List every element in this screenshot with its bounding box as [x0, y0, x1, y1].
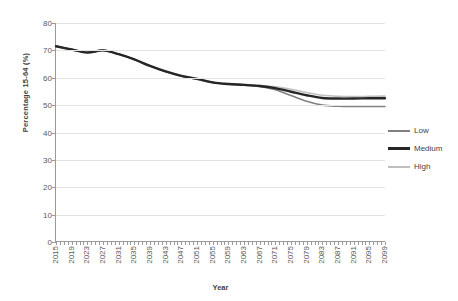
x-tick-2058 [224, 242, 225, 245]
y-tick-label-80: 80 [26, 19, 52, 28]
x-tick-2034 [130, 242, 131, 245]
y-tick-60 [52, 78, 56, 79]
x-tick-2019 [72, 242, 73, 245]
x-tick-label-2023: 2023 [83, 246, 91, 264]
series-line-medium [56, 46, 385, 98]
gridline-y-30 [56, 160, 385, 161]
x-tick-2049 [189, 242, 190, 245]
x-tick-2076 [295, 242, 296, 245]
x-tick-2068 [264, 242, 265, 245]
x-tick-label-2095: 2095 [365, 246, 373, 264]
x-tick-2038 [146, 242, 147, 245]
x-tick-2061 [236, 242, 237, 245]
x-tick-2074 [287, 242, 288, 245]
legend: LowMediumHigh [388, 126, 442, 171]
y-tick-label-50: 50 [26, 101, 52, 110]
x-tick-2075 [291, 242, 292, 245]
x-tick-2065 [252, 242, 253, 245]
x-tick-2051 [197, 242, 198, 245]
x-tick-2036 [138, 242, 139, 245]
x-tick-2077 [299, 242, 300, 245]
y-tick-30 [52, 160, 56, 161]
x-tick-label-2035: 2035 [130, 246, 138, 264]
y-tick-80 [52, 23, 56, 24]
x-tick-2027 [103, 242, 104, 245]
x-tick-2082 [318, 242, 319, 245]
y-tick-50 [52, 105, 56, 106]
gridline-y-50 [56, 105, 385, 106]
x-tick-2046 [177, 242, 178, 245]
x-tick-2067 [260, 242, 261, 245]
x-tick-2032 [123, 242, 124, 245]
y-tick-label-0: 0 [26, 238, 52, 247]
x-tick-label-2087: 2087 [334, 246, 342, 264]
gridline-y-10 [56, 215, 385, 216]
y-tick-label-40: 40 [26, 128, 52, 137]
x-tick-2043 [166, 242, 167, 245]
x-tick-2053 [205, 242, 206, 245]
x-tick-2045 [174, 242, 175, 245]
x-tick-2088 [342, 242, 343, 245]
series-line-high [56, 46, 385, 97]
x-tick-2025 [95, 242, 96, 245]
x-tick-2041 [158, 242, 159, 245]
x-tick-2087 [338, 242, 339, 245]
x-tick-2060 [232, 242, 233, 245]
x-tick-2056 [217, 242, 218, 245]
x-tick-2055 [213, 242, 214, 245]
x-tick-label-2099: 2099 [381, 246, 389, 264]
x-tick-2091 [354, 242, 355, 245]
legend-label-medium: Medium [414, 144, 442, 153]
x-tick-2029 [111, 242, 112, 245]
x-tick-2081 [315, 242, 316, 245]
y-tick-label-10: 10 [26, 210, 52, 219]
x-tick-2028 [107, 242, 108, 245]
x-tick-label-2027: 2027 [99, 246, 107, 264]
x-tick-2069 [268, 242, 269, 245]
legend-swatch-high-icon [388, 166, 410, 168]
x-tick-label-2059: 2059 [224, 246, 232, 264]
x-tick-2063 [244, 242, 245, 245]
x-tick-2070 [271, 242, 272, 245]
x-tick-2094 [365, 242, 366, 245]
x-tick-2080 [311, 242, 312, 245]
x-tick-2030 [115, 242, 116, 245]
x-tick-label-2031: 2031 [115, 246, 123, 264]
x-tick-2059 [228, 242, 229, 245]
x-tick-2040 [154, 242, 155, 245]
legend-item-low[interactable]: Low [388, 126, 442, 135]
x-tick-label-2079: 2079 [303, 246, 311, 264]
x-tick-label-2039: 2039 [146, 246, 154, 264]
x-tick-2099 [385, 242, 386, 245]
x-tick-2024 [91, 242, 92, 245]
x-tick-2057 [221, 242, 222, 245]
x-tick-2064 [248, 242, 249, 245]
x-tick-label-2063: 2063 [240, 246, 248, 264]
legend-swatch-medium-icon [388, 147, 410, 149]
x-tick-2050 [193, 242, 194, 245]
x-tick-2052 [201, 242, 202, 245]
legend-label-high: High [414, 162, 430, 171]
legend-item-medium[interactable]: Medium [388, 144, 442, 153]
x-tick-label-2083: 2083 [318, 246, 326, 264]
x-tick-2098 [381, 242, 382, 245]
x-axis-tick-labels: 2015201920232027203120352039204320472051… [56, 246, 385, 280]
x-tick-2021 [80, 242, 81, 245]
x-tick-label-2051: 2051 [193, 246, 201, 264]
gridline-y-20 [56, 187, 385, 188]
x-tick-2085 [330, 242, 331, 245]
x-tick-2048 [185, 242, 186, 245]
x-tick-2097 [377, 242, 378, 245]
legend-item-high[interactable]: High [388, 162, 442, 171]
x-tick-label-2071: 2071 [271, 246, 279, 264]
x-tick-2015 [56, 242, 57, 245]
gridline-y-80 [56, 23, 385, 24]
x-tick-2066 [256, 242, 257, 245]
x-tick-2095 [369, 242, 370, 245]
x-axis-title: Year [56, 283, 385, 292]
x-tick-label-2091: 2091 [350, 246, 358, 264]
x-tick-label-2067: 2067 [256, 246, 264, 264]
y-tick-label-30: 30 [26, 155, 52, 164]
legend-swatch-low-icon [388, 130, 410, 132]
x-tick-label-2019: 2019 [68, 246, 76, 264]
